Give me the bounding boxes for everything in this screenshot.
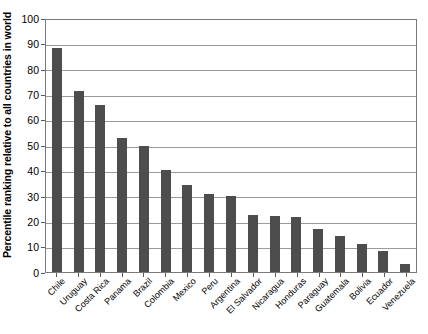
bar-slot	[220, 20, 242, 272]
y-tick-label: 10	[15, 242, 39, 252]
y-tick-label: 90	[15, 39, 39, 49]
bar	[291, 217, 301, 272]
bar	[182, 185, 192, 271]
y-tick-label: 30	[15, 192, 39, 202]
y-tick-label: 70	[15, 90, 39, 100]
bar	[335, 236, 345, 272]
bar-slot	[307, 20, 329, 272]
bar	[139, 146, 149, 272]
bar-slot	[264, 20, 286, 272]
y-tick-label: 60	[15, 115, 39, 125]
bar	[161, 170, 171, 272]
y-tick-label: 20	[15, 217, 39, 227]
bar-slot	[68, 20, 90, 272]
y-tick-label: 100	[15, 14, 39, 24]
plot-area	[45, 19, 417, 273]
bar	[52, 48, 62, 272]
bar	[357, 244, 367, 272]
bar	[117, 138, 127, 271]
bar-slot	[155, 20, 177, 272]
bar	[204, 194, 214, 271]
bar-slot	[198, 20, 220, 272]
bar-series	[46, 20, 416, 272]
bar	[400, 264, 410, 272]
y-tick-label: 40	[15, 166, 39, 176]
bar	[248, 215, 258, 272]
bar	[378, 251, 388, 271]
bar	[226, 196, 236, 272]
bar-slot	[133, 20, 155, 272]
bar-slot	[90, 20, 112, 272]
bar-slot	[329, 20, 351, 272]
y-axis-title: Percentile ranking relative to all count…	[0, 0, 16, 270]
bar-chart: Percentile ranking relative to all count…	[0, 0, 428, 334]
bar-slot	[372, 20, 394, 272]
bar	[95, 105, 105, 271]
y-tick-label: 80	[15, 65, 39, 75]
bar	[313, 229, 323, 272]
bar-slot	[177, 20, 199, 272]
bar-slot	[111, 20, 133, 272]
bar	[270, 216, 280, 272]
x-tick-label: Mexico	[171, 276, 198, 303]
x-axis-tick-labels: ChileUruguayCosta RicaPanamaBrazilColomb…	[45, 276, 417, 334]
bar-slot	[46, 20, 68, 272]
bar-slot	[394, 20, 416, 272]
bar-slot	[242, 20, 264, 272]
y-tick-label: 0	[15, 268, 39, 278]
bar	[74, 91, 84, 271]
bar-slot	[351, 20, 373, 272]
y-tick-label: 50	[15, 141, 39, 151]
bar-slot	[285, 20, 307, 272]
